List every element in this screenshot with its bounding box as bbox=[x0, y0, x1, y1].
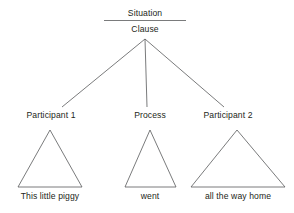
node-label-situation: Situation bbox=[128, 8, 162, 19]
node-label-clause: Clause bbox=[131, 24, 158, 35]
node-label-participant-1: Participant 1 bbox=[26, 110, 75, 121]
triangle-participant-1 bbox=[18, 130, 82, 187]
branch-to-participant-2 bbox=[145, 39, 224, 107]
syntax-tree-diagram: Situation Clause Participant 1 Process P… bbox=[0, 0, 294, 213]
branch-to-participant-1 bbox=[62, 39, 145, 107]
node-label-participant-2: Participant 2 bbox=[203, 110, 252, 121]
node-label-process: Process bbox=[134, 110, 166, 121]
leaf-label-participant-1: This little piggy bbox=[21, 191, 80, 202]
leaf-label-participant-2: all the way home bbox=[205, 191, 271, 202]
triangle-process bbox=[125, 130, 176, 187]
triangle-participant-2 bbox=[191, 130, 285, 187]
leaf-label-process: went bbox=[141, 191, 160, 202]
branch-to-process bbox=[145, 39, 147, 107]
